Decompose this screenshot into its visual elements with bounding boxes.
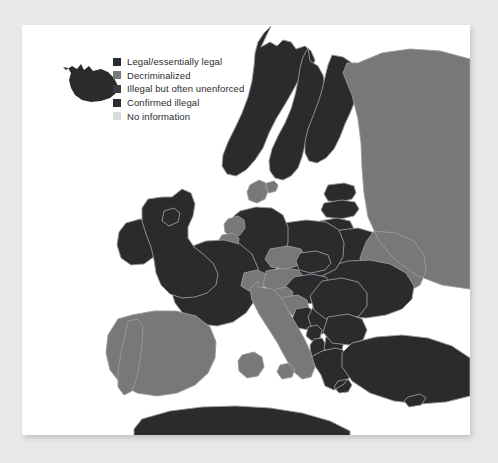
legend-swatch-decriminalized bbox=[113, 71, 121, 79]
legend-label-no-information: No information bbox=[127, 111, 190, 122]
europe-choropleth-map[interactable] bbox=[22, 25, 470, 435]
legend-item-decriminalized[interactable]: Decriminalized bbox=[113, 69, 244, 83]
legend-label-confirmed-illegal: Confirmed illegal bbox=[127, 97, 199, 108]
legend-swatch-legal bbox=[113, 58, 121, 66]
region-latvia[interactable] bbox=[321, 200, 359, 219]
legend-swatch-no-information bbox=[113, 112, 121, 120]
region-estonia[interactable] bbox=[324, 183, 356, 202]
legend-item-illegal-unenforced[interactable]: Illegal but often unenforced bbox=[113, 82, 244, 96]
region-slovakia[interactable] bbox=[296, 251, 331, 273]
legend-item-no-information[interactable]: No information bbox=[113, 109, 244, 123]
legend-item-legal[interactable]: Legal/essentially legal bbox=[113, 55, 244, 69]
legend-label-legal: Legal/essentially legal bbox=[127, 56, 222, 67]
legend-item-confirmed-illegal[interactable]: Confirmed illegal bbox=[113, 96, 244, 110]
legend-label-decriminalized: Decriminalized bbox=[127, 70, 191, 81]
legend-label-illegal-unenforced: Illegal but often unenforced bbox=[127, 83, 244, 94]
legend-swatch-illegal-unenforced bbox=[113, 85, 121, 93]
region-russia[interactable] bbox=[343, 49, 470, 295]
map-legend: Legal/essentially legal Decriminalized I… bbox=[113, 55, 244, 123]
map-panel: Legal/essentially legal Decriminalized I… bbox=[22, 25, 470, 435]
region-bulgaria[interactable] bbox=[323, 314, 367, 345]
legend-swatch-confirmed-illegal bbox=[113, 99, 121, 107]
